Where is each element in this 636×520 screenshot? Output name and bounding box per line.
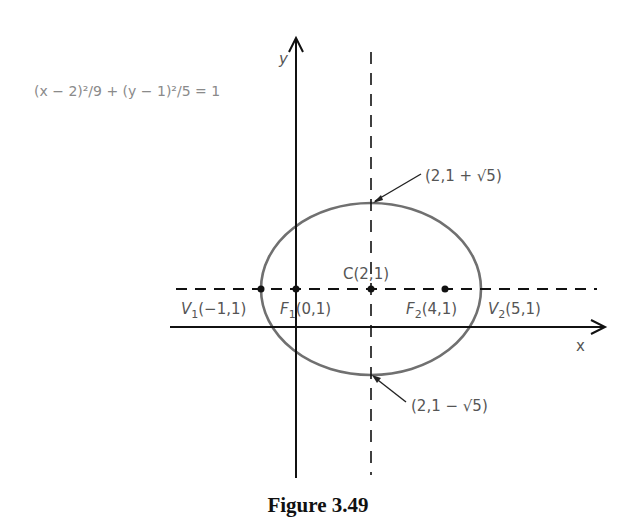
center-label: C(2,1) (343, 265, 389, 283)
top-leader-arrow-icon (373, 195, 383, 203)
vertex-v1-dot (258, 286, 265, 293)
vertex-v1-label: V1(−1,1) (181, 300, 246, 321)
bottom-point-label: (2,1 − √5) (411, 397, 488, 415)
x-axis-label: x (576, 337, 585, 355)
y-axis-label: y (278, 50, 289, 68)
focus-f1-label: F1(0,1) (280, 300, 331, 321)
focus-f2-label: F2(4,1) (406, 300, 457, 321)
focus-f2-dot (442, 286, 449, 293)
vertex-v2-label: V2(5,1) (488, 300, 541, 321)
focus-f1-dot (293, 286, 300, 293)
figure-caption: Figure 3.49 (267, 493, 368, 517)
top-leader-line (375, 174, 421, 201)
top-point-label: (2,1 + √5) (425, 167, 502, 185)
center-dot (368, 286, 375, 293)
ellipse-equation: (x − 2)²/9 + (y − 1)²/5 = 1 (34, 83, 220, 99)
ellipse-figure: y x (x − 2)²/9 + (y − 1)²/5 = 1 C(2,1) V… (0, 0, 636, 520)
